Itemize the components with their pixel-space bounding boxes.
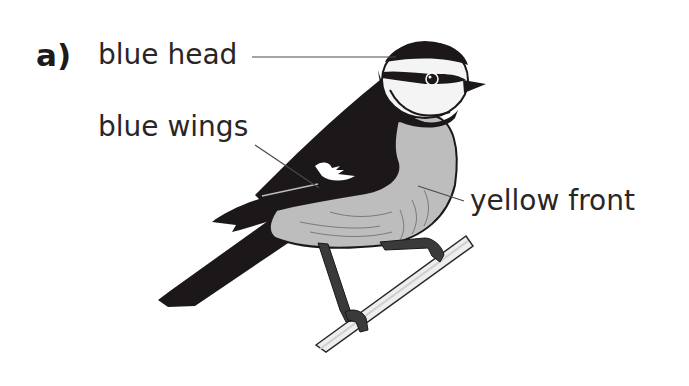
blue-tit-illustration bbox=[0, 0, 689, 386]
labelled-bird-diagram: a) blue head blue wings yellow front bbox=[0, 0, 689, 386]
bird-eye bbox=[426, 73, 438, 85]
bird-beak bbox=[463, 80, 486, 93]
bird-legs bbox=[318, 238, 444, 332]
